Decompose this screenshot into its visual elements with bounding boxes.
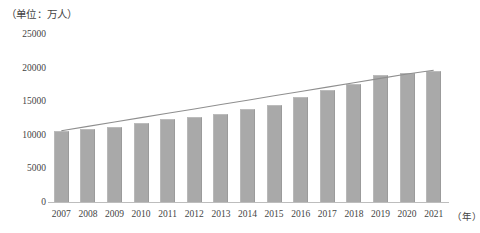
bar <box>373 75 388 202</box>
y-axis-tick-label: 15000 <box>2 96 46 106</box>
x-axis-tick-label: 2018 <box>344 209 363 219</box>
y-axis-tick-label: 25000 <box>2 29 46 39</box>
x-axis-tick-label: 2021 <box>424 209 443 219</box>
x-axis-tick-label: 2016 <box>291 209 310 219</box>
x-axis-line <box>48 202 449 203</box>
x-axis-tick-label: 2008 <box>78 209 97 219</box>
bar <box>213 114 228 202</box>
y-axis-tick-labels: 0500010000150002000025000 <box>0 0 46 233</box>
bar <box>240 109 255 202</box>
x-axis-tick-label: 2009 <box>105 209 124 219</box>
plot-area <box>48 34 447 202</box>
y-axis-tick-label: 0 <box>2 197 46 207</box>
x-axis-tick-label: 2019 <box>371 209 390 219</box>
bar <box>426 71 441 202</box>
x-axis-unit-label: （年） <box>452 209 480 223</box>
bar <box>293 97 308 202</box>
x-axis-tick-label: 2020 <box>398 209 417 219</box>
bar <box>160 119 175 202</box>
x-axis-tick-label: 2017 <box>318 209 337 219</box>
bar <box>267 105 282 202</box>
bar <box>346 84 361 202</box>
x-axis-tick-label: 2012 <box>185 209 204 219</box>
y-axis-tick-label: 20000 <box>2 63 46 73</box>
bar <box>54 131 69 202</box>
x-axis-tick-label: 2015 <box>265 209 284 219</box>
bar <box>80 129 95 202</box>
x-axis-tick-label: 2007 <box>52 209 71 219</box>
bar-series <box>48 34 447 202</box>
bar <box>320 90 335 202</box>
x-axis-tick-label: 2011 <box>158 209 177 219</box>
y-axis-tick-label: 5000 <box>2 163 46 173</box>
x-axis-tick-label: 2013 <box>211 209 230 219</box>
bar <box>107 127 122 202</box>
bar <box>134 123 149 202</box>
x-axis-tick-label: 2014 <box>238 209 257 219</box>
x-axis-tick-labels: （年） 200720082009201020112012201320142015… <box>48 205 449 227</box>
bar <box>187 117 202 202</box>
bar <box>400 73 415 202</box>
x-axis-tick-label: 2010 <box>132 209 151 219</box>
y-axis-tick-label: 10000 <box>2 130 46 140</box>
